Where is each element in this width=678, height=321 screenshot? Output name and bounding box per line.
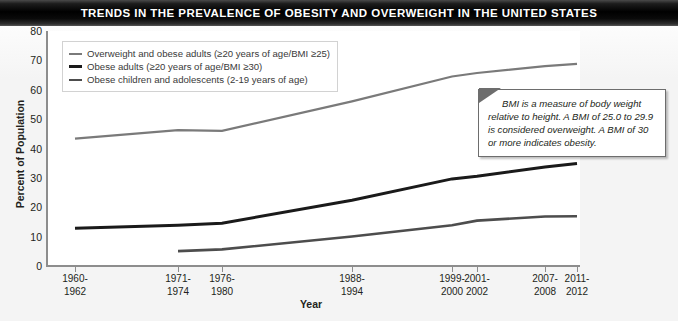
callout-tail-icon <box>479 88 501 103</box>
legend-swatch-obese-adults <box>69 65 82 68</box>
legend-item: Obese children and adolescents (2-19 yea… <box>69 73 330 86</box>
legend-swatch-obese-children <box>69 79 82 81</box>
legend-item: Obese adults (≥20 years of age/BMI ≥30) <box>69 60 330 73</box>
legend-label-obese-children: Obese children and adolescents (2-19 yea… <box>87 74 308 85</box>
bmi-annotation-callout: BMI is a measure of body weight relative… <box>478 89 666 157</box>
legend-label-obese-adults: Obese adults (≥20 years of age/BMI ≥30) <box>87 61 262 72</box>
chart-legend: Overweight and obese adults (≥20 years o… <box>62 41 338 92</box>
bmi-annotation-text: BMI is a measure of body weight relative… <box>488 97 657 149</box>
chart-screenshot: TRENDS IN THE PREVALENCE OF OBESITY AND … <box>0 0 678 321</box>
legend-label-overweight-adults: Overweight and obese adults (≥20 years o… <box>87 48 330 59</box>
legend-swatch-overweight-adults <box>69 53 82 55</box>
legend-item: Overweight and obese adults (≥20 years o… <box>69 47 330 60</box>
